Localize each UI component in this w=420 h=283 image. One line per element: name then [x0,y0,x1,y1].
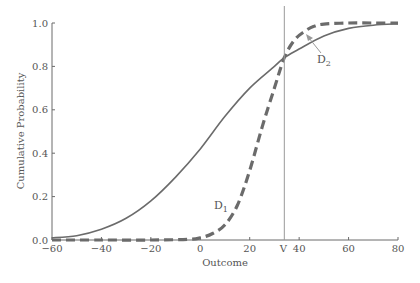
y-tick-label: 0.8 [32,61,48,72]
x-tick-label: 0 [197,243,203,254]
d2-label-sub: 2 [326,59,331,68]
d2-arrowhead-icon [306,34,313,41]
d1-label-sub: 1 [223,205,228,214]
x-axis-label: Outcome [202,257,248,268]
x-tick-label: 20 [243,243,256,254]
y-axis-label: Cumulative Probability [15,72,26,189]
y-tick-label: 1.0 [32,18,48,29]
d2-label-main: D [317,53,326,66]
x-tick-label: −40 [91,243,112,254]
axes: −60−40−200204060800.00.20.40.60.81.0 [32,18,404,255]
chart-svg: −60−40−200204060800.00.20.40.60.81.0 V D… [0,0,420,283]
x-tick-label: 80 [392,243,405,254]
y-tick-label: 0.4 [32,148,48,159]
x-tick-label: 40 [293,243,306,254]
cumulative-probability-chart: −60−40−200204060800.00.20.40.60.81.0 V D… [0,0,420,283]
d1-label: D1 [214,199,228,214]
y-tick-label: 0.6 [32,104,48,115]
x-tick-label: 60 [342,243,355,254]
y-tick-label: 0.0 [32,235,48,246]
d2-label: D2 [317,53,331,68]
x-tick-label: −20 [140,243,161,254]
v-label: V [279,243,288,254]
d1-label-main: D [214,199,223,212]
y-tick-label: 0.2 [32,191,48,202]
